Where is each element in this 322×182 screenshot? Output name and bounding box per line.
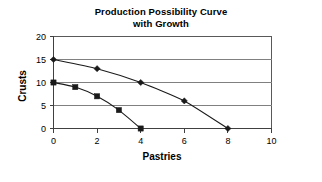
x-tick-label-4: 4	[138, 136, 143, 146]
series-1-diamond	[50, 56, 231, 131]
x-tick-label-0: 0	[51, 136, 56, 146]
data-point-s2-x1-y9	[73, 85, 78, 90]
x-axis-tick-labels: 0 2 4 6 8 10	[51, 136, 277, 146]
data-point-s2-x2-y7	[95, 94, 100, 99]
data-series-layer	[50, 56, 231, 131]
x-tick-label-6: 6	[182, 136, 187, 146]
y-tick-label-5: 5	[41, 101, 46, 111]
x-tick-label-2: 2	[95, 136, 100, 146]
x-axis-ticks	[54, 129, 272, 133]
data-point-s1-x2-y13	[94, 66, 100, 72]
data-point-s1-x8-y0	[225, 125, 231, 131]
y-tick-label-0: 0	[41, 124, 46, 134]
data-point-s2-x0-y10	[51, 80, 56, 85]
x-axis-title: Pastries	[143, 151, 182, 162]
data-point-s2-x3-y4	[116, 108, 121, 113]
y-axis-tick-labels: 20 15 10 5 0	[36, 32, 46, 134]
series-line-1	[54, 60, 228, 129]
y-tick-label-15: 15	[36, 55, 46, 65]
chart-plot-svg: 20 15 10 5 0 0 2 4 6 8 10 Pastries Crust…	[0, 0, 322, 182]
chart-container: Production Possibility Curve with Growth	[0, 0, 322, 182]
data-point-s1-x0-y15	[50, 56, 56, 62]
y-axis-title: Crusts	[17, 70, 28, 102]
data-point-s2-x4-y0	[138, 126, 143, 131]
gridlines-horizontal	[54, 60, 272, 129]
x-tick-label-8: 8	[225, 136, 230, 146]
data-point-s1-x6-y6	[181, 98, 187, 104]
y-tick-label-20: 20	[36, 32, 46, 42]
x-tick-label-10: 10	[266, 136, 276, 146]
data-point-s1-x4-y10	[138, 79, 144, 85]
y-tick-label-10: 10	[36, 78, 46, 88]
